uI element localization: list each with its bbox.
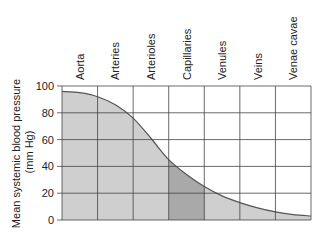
category-label: Venules [216, 40, 228, 80]
category-label: Capillaries [181, 28, 193, 80]
y-tick-label: 100 [36, 80, 54, 92]
y-tick-label: 20 [42, 187, 54, 199]
blood-pressure-chart: AortaArteriesArteriolesCapillariesVenule… [0, 0, 328, 237]
category-label: Arterioles [145, 33, 157, 80]
capillaries-highlight [169, 86, 205, 220]
category-label: Veins [252, 53, 264, 80]
pressure-area [62, 86, 311, 220]
category-label: Arteries [109, 42, 121, 80]
category-label: Aorta [74, 53, 86, 80]
y-tick-label: 40 [42, 160, 54, 172]
category-labels: AortaArteriesArteriolesCapillariesVenule… [74, 16, 299, 80]
y-tick-label: 0 [48, 214, 54, 226]
y-axis-label: Mean systemic blood pressure (mm Hg) [10, 76, 35, 228]
y-axis-label-line1: Mean systemic blood pressure [10, 79, 22, 228]
y-tick-label: 60 [42, 134, 54, 146]
category-label: Venae cavae [287, 16, 299, 80]
y-axis-label-line2: (mm Hg) [23, 131, 35, 174]
y-tick-label: 80 [42, 107, 54, 119]
y-axis-ticks: 020406080100 [36, 80, 54, 226]
